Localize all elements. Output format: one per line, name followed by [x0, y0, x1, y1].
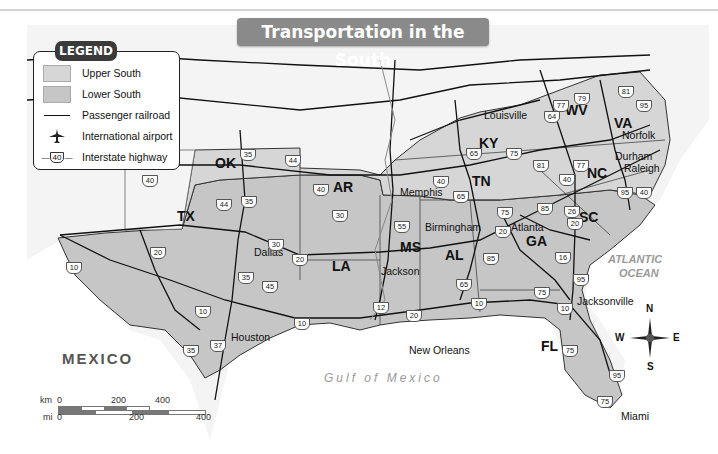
interstate-shield-75: 75 — [506, 148, 522, 160]
interstate-shield-65: 65 — [456, 279, 472, 291]
interstate-shield-65: 65 — [466, 148, 482, 160]
state-label-ok: OK — [215, 155, 236, 171]
scale-km-200: 200 — [111, 395, 126, 405]
city-label-louisville: Louisville — [484, 109, 527, 121]
legend-label: International airport — [82, 130, 172, 142]
interstate-shield-81: 81 — [533, 160, 549, 172]
interstate-shield-10: 10 — [66, 262, 82, 274]
city-label-miami: Miami — [621, 410, 649, 422]
state-label-ga: GA — [526, 233, 547, 249]
interstate-shield-16: 16 — [555, 252, 571, 264]
city-label-houston: Houston — [231, 331, 270, 343]
scale-mi-200: 200 — [129, 412, 144, 422]
interstate-shield-icon: —40— — [40, 149, 74, 165]
interstate-shield-45: 45 — [262, 281, 278, 293]
city-label-birmingham: Birmingham — [425, 221, 481, 233]
city-label-raleigh: Raleigh — [624, 162, 660, 174]
compass-w: W — [615, 332, 624, 343]
city-label-jackson: Jackson — [381, 265, 420, 277]
interstate-shield-35: 35 — [240, 149, 256, 161]
interstate-shield-85: 85 — [483, 253, 499, 265]
state-label-al: AL — [445, 247, 464, 263]
legend-item-airport: International airport — [40, 127, 172, 145]
city-label-durham: Durham — [615, 150, 652, 162]
interstate-shield-77: 77 — [573, 160, 589, 172]
interstate-shield-85: 85 — [537, 203, 553, 215]
scale-km-label: km — [40, 395, 52, 405]
interstate-shield-35: 35 — [238, 272, 254, 284]
water-label-ocean: OCEAN — [619, 267, 659, 279]
interstate-shield-79: 79 — [574, 93, 590, 105]
interstate-shield-30: 30 — [268, 239, 284, 251]
interstate-shield-10: 10 — [557, 303, 573, 315]
interstate-shield-40: 40 — [142, 175, 158, 187]
interstate-shield-20: 20 — [495, 226, 511, 238]
water-label-gulf: Gulf of Mexico — [324, 371, 443, 385]
interstate-shield-95: 95 — [617, 187, 633, 199]
city-label-atlanta: Atlanta — [511, 221, 544, 233]
legend-title: LEGEND — [55, 41, 117, 61]
interstate-shield-35: 35 — [183, 345, 199, 357]
compass-icon — [625, 313, 675, 363]
scale-km-400: 400 — [155, 395, 170, 405]
state-label-la: LA — [332, 258, 351, 274]
legend-label: Lower South — [82, 88, 141, 100]
interstate-shield-10: 10 — [471, 298, 487, 310]
water-label-atlantic: ATLANTIC — [608, 253, 662, 265]
interstate-shield-75: 75 — [534, 287, 550, 299]
interstate-shield-20: 20 — [292, 254, 308, 266]
legend-label: Upper South — [82, 67, 141, 79]
interstate-shield-26: 26 — [564, 206, 580, 218]
legend-item-railroad: Passenger railroad — [40, 106, 170, 124]
railroad-line-icon — [44, 115, 70, 116]
scale-mi-400: 400 — [196, 412, 211, 422]
interstate-shield-95: 95 — [609, 370, 625, 382]
airplane-icon — [40, 128, 74, 144]
state-label-tx: TX — [177, 208, 195, 224]
legend-label: Interstate highway — [82, 151, 167, 163]
scale-mi-label: mi — [43, 412, 53, 422]
interstate-shield-64: 64 — [544, 111, 560, 123]
compass-rose: N S E W — [625, 313, 675, 363]
interstate-shield-30: 30 — [332, 210, 348, 222]
state-label-tn: TN — [472, 173, 491, 189]
interstate-shield-20: 20 — [567, 218, 583, 230]
interstate-shield-37: 37 — [210, 340, 226, 352]
scale-bar: km 0 200 400 mi 0 200 400 — [40, 395, 240, 430]
legend-item-upper-south: Upper South — [40, 64, 141, 82]
state-label-ms: MS — [400, 239, 421, 255]
interstate-shield-12: 12 — [373, 302, 389, 314]
interstate-shield-40: 40 — [433, 176, 449, 188]
interstate-shield-95: 95 — [636, 100, 652, 112]
legend-label: Passenger railroad — [82, 109, 170, 121]
legend-item-lower-south: Lower South — [40, 85, 141, 103]
legend: Upper South Lower South Passenger railro… — [33, 51, 180, 170]
interstate-shield-44: 44 — [216, 199, 232, 211]
city-label-memphis: Memphis — [400, 186, 443, 198]
map-title: Transportation in the South — [237, 18, 489, 46]
interstate-shield-10: 10 — [294, 318, 310, 330]
city-label-norfolk: Norfolk — [622, 129, 655, 141]
interstate-shield-35: 35 — [241, 196, 257, 208]
top-divider — [0, 9, 718, 11]
interstate-shield-75: 75 — [597, 396, 613, 408]
compass-e: E — [673, 332, 680, 343]
state-label-fl: FL — [541, 338, 558, 354]
interstate-shield-81: 81 — [618, 86, 634, 98]
city-label-jacksonville: Jacksonville — [577, 295, 634, 307]
interstate-shield-75: 75 — [497, 207, 513, 219]
city-label-new-orleans: New Orleans — [409, 344, 470, 356]
compass-n: N — [646, 303, 653, 314]
interstate-shield-20: 20 — [150, 247, 166, 259]
interstate-shield-55: 55 — [394, 221, 410, 233]
legend-item-interstate: —40— Interstate highway — [40, 148, 167, 166]
state-label-ar: AR — [333, 179, 353, 195]
interstate-shield-40: 40 — [559, 174, 575, 186]
lower-south-swatch — [43, 86, 71, 103]
compass-s: S — [647, 361, 654, 372]
state-label-nc: NC — [587, 165, 607, 181]
interstate-shield-20: 20 — [406, 310, 422, 322]
country-label-mexico: MEXICO — [62, 350, 133, 367]
scale-mi-0: 0 — [57, 412, 62, 422]
interstate-shield-95: 95 — [573, 274, 589, 286]
